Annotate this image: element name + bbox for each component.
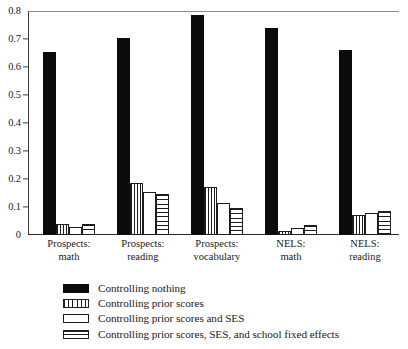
x-tick-label-line: NELS: xyxy=(349,238,381,251)
plot-area xyxy=(29,11,399,235)
bar xyxy=(352,215,365,235)
y-tick-label: 0.6 xyxy=(8,62,21,73)
legend-swatch-vertical-stripes xyxy=(63,299,89,308)
y-tick-label: 0.2 xyxy=(8,174,21,185)
y-tick-label: 0 xyxy=(16,230,21,241)
x-tick-label-line: reading xyxy=(349,251,381,264)
bar xyxy=(204,187,217,235)
bar-group xyxy=(43,11,95,235)
bar xyxy=(191,15,204,235)
bar-group xyxy=(117,11,169,235)
x-tick-label-line: reading xyxy=(121,251,164,264)
y-tick-mark xyxy=(23,150,28,151)
chart-legend: Controlling nothingControlling prior sco… xyxy=(63,281,403,342)
bar xyxy=(156,194,169,235)
x-tick-label: Prospects:math xyxy=(47,238,90,263)
bar xyxy=(378,211,391,235)
y-tick-mark xyxy=(23,122,28,123)
x-axis: Prospects:mathProspects:readingProspects… xyxy=(29,238,399,272)
y-axis: 00.10.20.30.40.50.60.70.8 xyxy=(0,0,28,349)
legend-item: Controlling prior scores and SES xyxy=(63,311,403,326)
x-tick-label-line: math xyxy=(276,251,305,264)
bar-group xyxy=(339,11,391,235)
x-tick-label: Prospects:vocabulary xyxy=(194,238,241,263)
bar xyxy=(265,28,278,235)
bar xyxy=(217,203,230,235)
y-tick-label: 0.1 xyxy=(8,202,21,213)
bar xyxy=(43,52,56,235)
x-tick-label: NELS:reading xyxy=(349,238,381,263)
y-tick-mark xyxy=(23,94,28,95)
bar xyxy=(69,227,82,235)
bar xyxy=(365,213,378,235)
y-tick-mark xyxy=(23,38,28,39)
bar xyxy=(291,228,304,235)
bar xyxy=(339,50,352,235)
x-tick-label: NELS:math xyxy=(276,238,305,263)
bar-group xyxy=(191,11,243,235)
bar xyxy=(278,231,291,235)
y-tick-label: 0.7 xyxy=(8,34,21,45)
legend-label: Controlling prior scores xyxy=(98,298,204,309)
legend-swatch-horizontal-stripes xyxy=(63,330,89,339)
bar-chart-figure: 00.10.20.30.40.50.60.70.8 Prospects:math… xyxy=(0,0,408,349)
legend-swatch-empty-white xyxy=(63,314,89,323)
bar xyxy=(130,183,143,235)
y-tick-label: 0.3 xyxy=(8,146,21,157)
bar xyxy=(230,208,243,235)
bar xyxy=(304,225,317,235)
legend-item: Controlling nothing xyxy=(63,281,403,296)
x-tick-label-line: Prospects: xyxy=(194,238,241,251)
legend-label: Controlling prior scores and SES xyxy=(98,313,244,324)
x-tick-label-line: math xyxy=(47,251,90,264)
y-tick-mark xyxy=(23,178,28,179)
bar-group xyxy=(265,11,317,235)
y-tick-label: 0.5 xyxy=(8,90,21,101)
bar xyxy=(143,192,156,235)
y-tick-label: 0.8 xyxy=(8,6,21,17)
bar xyxy=(56,224,69,235)
legend-item: Controlling prior scores xyxy=(63,296,403,311)
legend-label: Controlling prior scores, SES, and schoo… xyxy=(98,329,339,340)
x-tick-label: Prospects:reading xyxy=(121,238,164,263)
x-tick-label-line: NELS: xyxy=(276,238,305,251)
legend-label: Controlling nothing xyxy=(98,283,186,294)
legend-item: Controlling prior scores, SES, and schoo… xyxy=(63,327,403,342)
y-tick-label: 0.4 xyxy=(8,118,21,129)
y-tick-mark xyxy=(23,66,28,67)
bar xyxy=(117,38,130,235)
x-tick-label-line: vocabulary xyxy=(194,251,241,264)
bar xyxy=(82,224,95,235)
y-tick-mark xyxy=(23,206,28,207)
legend-swatch-solid-black xyxy=(63,284,89,293)
x-tick-label-line: Prospects: xyxy=(121,238,164,251)
x-tick-label-line: Prospects: xyxy=(47,238,90,251)
